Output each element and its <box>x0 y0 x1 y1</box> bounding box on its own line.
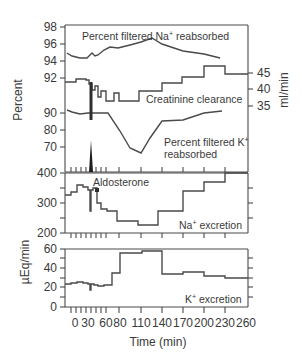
tick-40b: 40 <box>44 261 58 275</box>
tick-40: 40 <box>257 82 271 96</box>
top-right-ticks <box>248 73 253 106</box>
mid-x-ticks <box>71 233 225 238</box>
bot-x-ticks <box>71 307 225 313</box>
top-panel: 98 96 94 92 90 80 70 45 40 35 Percent ml… <box>11 20 291 172</box>
x-tick-80: 80 <box>113 316 127 330</box>
k-excretion-line <box>65 251 248 290</box>
x-tick-30: 30 <box>81 316 95 330</box>
x-tick-260: 260 <box>236 316 256 330</box>
physiology-chart: 98 96 94 92 90 80 70 45 40 35 Percent ml… <box>0 0 302 358</box>
na-reabsorbed-label: Percent filtered Na+ reabsorbed <box>82 30 229 42</box>
percent-axis-title: Percent <box>11 79 25 121</box>
k-excretion-label: K+ excretion <box>185 293 242 305</box>
x-axis-title: Time (min) <box>130 335 187 349</box>
tick-90: 90 <box>44 106 58 120</box>
k-reabsorbed-label-line2: reabsorbed <box>164 148 217 160</box>
tick-60: 60 <box>44 242 58 256</box>
creatinine-label: Creatinine clearance <box>146 93 242 105</box>
top-x-ticks <box>71 167 225 172</box>
x-tick-200: 200 <box>194 316 214 330</box>
x-tick-230: 230 <box>215 316 235 330</box>
x-tick-60: 60 <box>99 316 113 330</box>
bottom-panel: 60 40 20 0 K+ excretion <box>44 242 253 314</box>
tick-200: 200 <box>37 226 57 240</box>
x-tick-140: 140 <box>152 316 172 330</box>
ueq-axis-title: µEq/min <box>18 240 32 284</box>
x-tick-110: 110 <box>131 316 150 330</box>
tick-0: 0 <box>50 300 57 314</box>
top-left-ticks <box>60 27 65 147</box>
tick-400: 400 <box>37 166 57 180</box>
aldosterone-marker <box>95 188 99 192</box>
mlmin-axis-title: ml/min <box>277 72 291 107</box>
x-tick-170: 170 <box>173 316 193 330</box>
tick-45: 45 <box>257 66 271 80</box>
x-axis-labels: 0 30 60 80 110 140 170 200 230 260 <box>72 316 257 330</box>
tick-70: 70 <box>44 140 58 154</box>
tick-94: 94 <box>44 54 58 68</box>
x-tick-0: 0 <box>72 316 79 330</box>
tick-20: 20 <box>44 280 58 294</box>
tick-35: 35 <box>257 99 271 113</box>
na-excretion-label: Na+ excretion <box>179 219 242 231</box>
k-reabsorbed-label-line1: Percent filtered K+ <box>164 136 249 148</box>
tick-80: 80 <box>44 123 58 137</box>
tick-96: 96 <box>44 37 58 51</box>
tick-92: 92 <box>44 71 58 85</box>
tick-300: 300 <box>37 196 57 210</box>
tick-98: 98 <box>44 20 58 34</box>
injection-arrow-icon <box>89 140 93 172</box>
aldosterone-label: Aldosterone <box>93 176 149 188</box>
